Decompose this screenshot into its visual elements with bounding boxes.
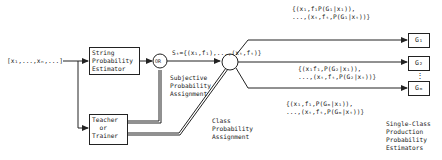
teacher-or-trainer: Teacher or Trainer <box>89 114 128 145</box>
string-probability-estimator: String Probability Estimator <box>89 47 140 75</box>
branch-set-1: {(x₁,f₁P(G₁|x₁)), ...,(xₜ,fₜ,P(G₁|xₜ))} <box>292 5 370 21</box>
sample-set-label: Sₜ={(x₁,f₁),...,(xₜ,fₜ)} <box>172 49 261 57</box>
class-estimator-gm: Gₘ <box>408 81 430 96</box>
class-assignment-label: Class Probability Assignment <box>212 117 253 141</box>
ellipsis: ⋮ <box>416 72 424 80</box>
class-estimator-g2: G₂ <box>408 56 430 71</box>
class-estimator-g1: G₁ <box>408 33 430 48</box>
estimators-caption: Single-Class Production Probability Esti… <box>386 120 431 152</box>
input-sequence: [x₁,...,xₙ,...] <box>7 57 63 65</box>
branch-set-m: {(x₁,f₁,P(Gₘ|x₁)), ...,(xₜ,fₜ,P(Gₘ|xₜ))} <box>286 100 364 116</box>
or-label: OR <box>155 57 161 65</box>
subjective-assignment-label: Subjective Probability Assignment <box>170 74 211 98</box>
branch-set-2: {(x₁f₁,P(G₂|x₁)), ...,(xₜ,fₜ,P(G₂|xₜ))} <box>298 65 376 81</box>
